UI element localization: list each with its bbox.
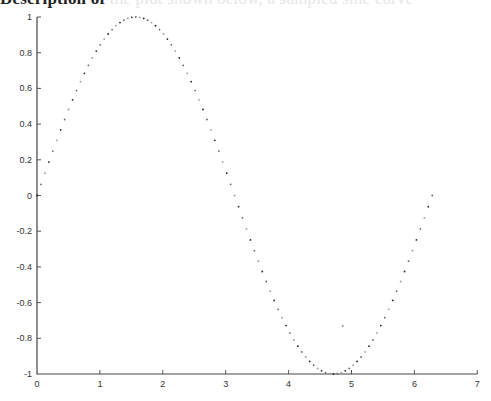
data-point: [356, 361, 358, 363]
data-point: [99, 44, 101, 46]
y-tick-label: 0: [27, 191, 32, 201]
data-point: [309, 361, 311, 363]
data-point: [273, 300, 275, 302]
data-point: [325, 372, 327, 374]
data-point: [210, 129, 212, 131]
data-point: [352, 364, 354, 366]
data-point: [167, 38, 169, 40]
x-tick-label: 6: [412, 379, 417, 389]
x-tick-label: 1: [97, 379, 102, 389]
data-point: [206, 119, 208, 121]
data-point: [91, 57, 93, 59]
data-point: [265, 281, 267, 283]
data-point: [155, 25, 157, 27]
data-point: [321, 370, 323, 372]
data-point: [119, 22, 121, 24]
data-point: [364, 351, 366, 353]
data-point: [427, 206, 429, 208]
data-point: [143, 18, 145, 20]
data-point: [95, 50, 97, 52]
data-point: [182, 64, 184, 66]
data-point: [139, 16, 141, 18]
data-point: [396, 290, 398, 292]
data-point: [163, 33, 165, 35]
data-point: [64, 119, 66, 121]
data-point: [376, 332, 378, 334]
data-point: [190, 81, 192, 83]
data-point: [76, 90, 78, 92]
x-tick-label: 3: [223, 379, 228, 389]
data-point: [170, 44, 172, 46]
data-point: [226, 172, 228, 174]
y-tick-label: -0.6: [16, 298, 32, 308]
data-point: [372, 339, 374, 341]
data-point: [218, 150, 220, 152]
data-point: [131, 16, 133, 18]
data-point: [234, 195, 236, 197]
data-point: [151, 22, 153, 24]
x-tick-label: 0: [34, 379, 39, 389]
data-point: [80, 81, 82, 83]
data-point: [111, 29, 113, 31]
data-point: [388, 308, 390, 310]
data-point: [412, 250, 414, 252]
x-tick-label: 4: [286, 379, 291, 389]
data-point: [380, 325, 382, 327]
data-point: [384, 317, 386, 319]
data-point: [344, 370, 346, 372]
data-point: [305, 356, 307, 358]
data-point: [242, 217, 244, 219]
data-point: [186, 72, 188, 74]
data-point: [301, 351, 303, 353]
data-point: [87, 64, 89, 66]
data-point: [123, 19, 125, 21]
data-point: [277, 308, 279, 310]
y-tick-label: 0.2: [19, 155, 32, 165]
y-tick-label: -0.2: [16, 226, 32, 236]
data-point: [147, 19, 149, 21]
data-point: [60, 129, 62, 131]
data-point: [340, 372, 342, 374]
data-point: [250, 239, 252, 241]
data-point: [40, 183, 42, 185]
data-point: [392, 300, 394, 302]
y-tick-label: 0.6: [19, 83, 32, 93]
data-point: [257, 260, 259, 262]
data-point: [230, 183, 232, 185]
data-point: [408, 260, 410, 262]
data-point: [431, 195, 433, 197]
data-point: [178, 57, 180, 59]
data-point: [336, 373, 338, 375]
data-point: [400, 281, 402, 283]
data-point: [198, 99, 200, 101]
data-point: [348, 367, 350, 369]
data-point: [253, 250, 255, 252]
data-point: [222, 161, 224, 163]
data-point: [159, 29, 161, 31]
data-point: [419, 228, 421, 230]
data-point: [293, 339, 295, 341]
data-point: [194, 90, 196, 92]
data-point: [84, 72, 86, 74]
y-tick-label: 0.4: [19, 119, 32, 129]
data-point: [174, 50, 176, 52]
data-point: [368, 345, 370, 347]
y-tick-label: -0.8: [16, 333, 32, 343]
data-point: [313, 364, 315, 366]
y-tick-label: 1: [27, 12, 32, 22]
data-point: [329, 373, 331, 375]
x-tick-label: 7: [475, 379, 480, 389]
y-tick-label: -0.4: [16, 262, 32, 272]
data-point: [52, 150, 54, 152]
data-point: [202, 109, 204, 111]
y-tick-label: 0.8: [19, 48, 32, 58]
data-point: [281, 317, 283, 319]
data-point: [115, 25, 117, 27]
data-point: [127, 18, 129, 20]
data-point: [246, 228, 248, 230]
data-point: [48, 161, 50, 163]
data-point: [317, 367, 319, 369]
data-point: [416, 239, 418, 241]
data-point: [214, 139, 216, 141]
data-point: [44, 172, 46, 174]
